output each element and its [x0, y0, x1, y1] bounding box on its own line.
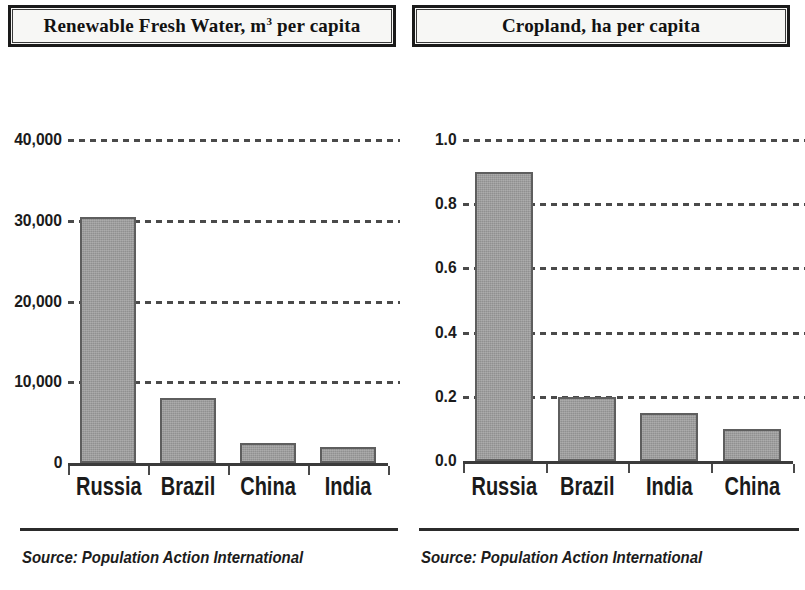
bar [723, 429, 781, 461]
x-axis-category-label: China [719, 472, 785, 501]
x-axis-tick [628, 464, 630, 473]
x-axis-tick [308, 466, 310, 475]
x-axis-tick [793, 464, 795, 473]
y-axis-tick-label: 0.2 [435, 387, 457, 407]
x-axis-category-label: Russia [76, 472, 140, 501]
x-axis-tick [463, 464, 465, 473]
gridline [68, 139, 400, 142]
x-axis-category-label: China [236, 472, 300, 501]
bar [640, 413, 698, 461]
y-axis-tick-label: 0.4 [435, 323, 457, 343]
y-axis-tick-label: 30,000 [14, 211, 62, 231]
y-axis-tick-label: 0.0 [435, 451, 457, 471]
y-axis-tick-label: 40,000 [14, 130, 62, 150]
bar [558, 397, 616, 461]
footer-divider-left [20, 528, 398, 531]
bar [320, 447, 376, 463]
x-axis-category-label: Brazil [156, 472, 220, 501]
chart-plot-left: 010,00020,00030,00040,000RussiaBrazilChi… [0, 0, 405, 590]
x-axis-category-label: India [636, 472, 702, 501]
x-axis-tick [228, 466, 230, 475]
bar [160, 398, 216, 463]
x-axis-tick [546, 464, 548, 473]
y-axis-tick-label: 0 [53, 453, 62, 473]
x-axis-tick [68, 466, 70, 475]
bar [475, 172, 533, 461]
y-axis-tick-label: 10,000 [14, 372, 62, 392]
y-axis-tick-label: 0.6 [435, 258, 457, 278]
x-axis-category-label: Brazil [554, 472, 620, 501]
panel-renewable-fresh-water: Renewable Fresh Water, m3 per capita 010… [0, 0, 405, 590]
footer-divider-right [419, 528, 799, 531]
x-axis-tick [711, 464, 713, 473]
x-axis-category-label: India [316, 472, 380, 501]
chart-plot-right: 0.00.20.40.60.81.0RussiaBrazilIndiaChina [405, 0, 805, 590]
x-axis-tick [148, 466, 150, 475]
panel-cropland: Cropland, ha per capita 0.00.20.40.60.81… [405, 0, 805, 590]
source-note-left: Source: Population Action International [22, 548, 303, 568]
y-axis-tick-label: 20,000 [14, 292, 62, 312]
x-axis-tick [388, 466, 390, 475]
y-axis-tick-label: 1.0 [435, 130, 457, 150]
bar [80, 217, 136, 463]
gridline [463, 139, 805, 142]
source-note-right: Source: Population Action International [421, 548, 702, 568]
bar [240, 443, 296, 463]
x-axis-category-label: Russia [471, 472, 537, 501]
y-axis-tick-label: 0.8 [435, 194, 457, 214]
